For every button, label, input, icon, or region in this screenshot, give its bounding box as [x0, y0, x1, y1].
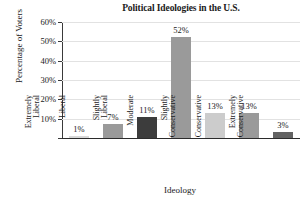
bar: [69, 136, 89, 138]
x-axis-category-label: ExtremelyConservative: [229, 95, 246, 141]
bar: [205, 113, 225, 138]
category-label-line: Conservative: [195, 95, 203, 141]
y-axis-tick: [58, 80, 62, 81]
chart-container: Political Ideologies in the U.S. Percent…: [0, 0, 308, 201]
category-label-line: Liberal: [101, 95, 109, 141]
y-axis-tick: [58, 22, 62, 23]
category-label-line: Moderate: [127, 95, 135, 141]
y-axis-tick: [58, 41, 62, 42]
x-axis-category-label: ExtremelyLiberal: [25, 95, 42, 141]
bar: [137, 117, 157, 138]
y-axis-tick-label: 50%: [20, 36, 56, 46]
bar-value-label: 3%: [263, 121, 303, 130]
category-label-line: Liberal: [59, 95, 67, 141]
y-axis-tick: [58, 61, 62, 62]
y-axis-title: Percentage of Voters: [14, 0, 24, 101]
x-axis-category-label: Moderate: [127, 95, 135, 141]
x-axis-category-label: SlightlyLiberal: [93, 95, 110, 141]
y-axis-tick-label: 30%: [20, 75, 56, 85]
category-label-line: Conservative: [169, 95, 177, 141]
category-label-line: Conservative: [237, 95, 245, 141]
bar: [273, 132, 293, 138]
x-axis-category-label: Liberal: [59, 95, 67, 141]
x-axis-title: Ideology: [120, 185, 240, 195]
gridline: [62, 22, 300, 23]
y-axis-tick-label: 60%: [20, 17, 56, 27]
chart-title: Political Ideologies in the U.S.: [62, 3, 300, 14]
category-label-line: Liberal: [33, 95, 41, 141]
x-axis-category-label: SlightlyConservative: [161, 95, 178, 141]
y-axis-tick-label: 40%: [20, 56, 56, 66]
bar-value-label: 52%: [161, 26, 201, 35]
x-axis-category-label: Conservative: [195, 95, 203, 141]
